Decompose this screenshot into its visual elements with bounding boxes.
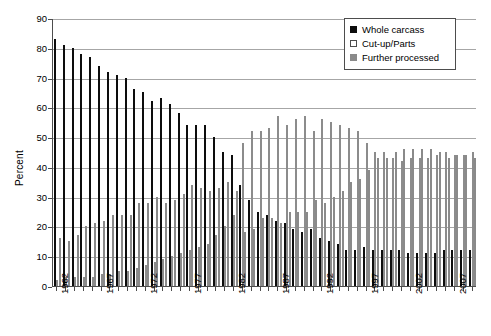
bar <box>183 194 185 286</box>
bar <box>377 158 379 286</box>
legend-swatch-further-icon <box>350 54 357 61</box>
y-axis-tick-label: 50 <box>7 133 47 143</box>
x-axis-tick-mark <box>233 287 234 291</box>
x-axis-tick-mark <box>445 287 446 291</box>
x-axis-tick-label: 1967 <box>105 273 115 294</box>
bar <box>439 152 441 286</box>
bar <box>315 200 317 286</box>
x-axis-tick-mark <box>348 287 349 291</box>
bar <box>54 39 56 286</box>
x-axis-tick-mark <box>392 287 393 291</box>
bar <box>395 152 397 286</box>
bar <box>125 78 127 286</box>
y-axis-tick-label: 20 <box>7 222 47 232</box>
y-axis-tick-label: 30 <box>7 193 47 203</box>
x-axis-tick-mark <box>339 287 340 291</box>
y-axis-tick-label: 70 <box>7 74 47 84</box>
x-axis-tick-mark <box>454 287 455 291</box>
bar <box>72 48 74 286</box>
bar <box>368 170 370 286</box>
bar <box>130 215 132 286</box>
bar <box>160 98 162 286</box>
x-axis-tick-mark <box>410 287 411 291</box>
x-axis-tick-mark <box>118 287 119 291</box>
bar <box>138 203 140 286</box>
x-axis-tick-label: 1972 <box>149 273 159 294</box>
x-axis-tick-mark <box>74 287 75 291</box>
bar <box>448 158 450 286</box>
x-axis-tick-label: 1977 <box>193 273 203 294</box>
legend-item-label: Whole carcass <box>362 25 424 35</box>
bar <box>77 235 79 286</box>
bar <box>142 92 144 286</box>
y-axis-tick-label: 90 <box>7 14 47 24</box>
x-axis-tick-mark <box>180 287 181 291</box>
x-axis-tick-mark <box>472 287 473 291</box>
x-axis-tick-mark <box>427 287 428 291</box>
bar <box>474 158 476 286</box>
legend-item: Whole carcass <box>350 23 450 36</box>
x-axis-tick-mark <box>295 287 296 291</box>
bar <box>412 149 414 286</box>
bar <box>297 212 299 286</box>
bar <box>456 155 458 286</box>
bar <box>165 203 167 286</box>
x-axis-tick-label: 1962 <box>60 273 70 294</box>
x-axis-tick-mark <box>401 287 402 291</box>
y-axis-tick-mark <box>48 287 52 288</box>
x-axis-tick-label: 2007 <box>458 273 468 294</box>
bar <box>89 57 91 286</box>
x-axis-tick-label: 2002 <box>414 273 424 294</box>
x-axis-tick-mark <box>357 287 358 291</box>
y-axis-tick-label: 40 <box>7 163 47 173</box>
bar <box>133 89 135 286</box>
x-axis-tick-mark <box>92 287 93 291</box>
bar <box>63 45 65 286</box>
x-axis-tick-mark <box>162 287 163 291</box>
x-axis-tick-mark <box>127 287 128 291</box>
y-axis-tick-label: 0 <box>7 282 47 292</box>
bar <box>306 212 308 286</box>
legend-swatch-whole-icon <box>350 26 357 33</box>
x-axis-tick-mark <box>207 287 208 291</box>
x-axis-tick-label: 1987 <box>281 273 291 294</box>
bar <box>107 72 109 286</box>
x-axis-tick-mark <box>215 287 216 291</box>
legend-item-label: Further processed <box>362 53 439 63</box>
chart-figure: Percent 0102030405060708090 196219671972… <box>0 0 491 336</box>
x-axis-tick-mark <box>136 287 137 291</box>
bar <box>227 182 229 286</box>
bar <box>85 226 87 286</box>
bar <box>94 223 96 286</box>
bar <box>262 218 264 286</box>
bar <box>174 200 176 286</box>
x-axis-tick-mark <box>260 287 261 291</box>
x-axis-tick-label: 1982 <box>237 273 247 294</box>
chart-legend: Whole carcassCut-up/PartsFurther process… <box>344 18 456 70</box>
x-axis-tick-mark <box>145 287 146 291</box>
bar <box>271 218 273 286</box>
bar <box>98 66 100 286</box>
x-axis-tick-mark <box>83 287 84 291</box>
x-axis-tick-mark <box>171 287 172 291</box>
x-axis-tick-mark <box>383 287 384 291</box>
y-axis-tick-label: 60 <box>7 103 47 113</box>
bar <box>209 191 211 286</box>
bar <box>342 191 344 286</box>
x-axis-tick-mark <box>56 287 57 291</box>
bar <box>200 188 202 286</box>
x-axis-tick-mark <box>224 287 225 291</box>
legend-item: Cut-up/Parts <box>350 37 450 50</box>
bar <box>151 101 153 286</box>
y-axis-tick-label: 10 <box>7 252 47 262</box>
y-axis-tick-label: 80 <box>7 44 47 54</box>
bar <box>386 158 388 286</box>
x-axis-tick-mark <box>189 287 190 291</box>
legend-swatch-cutup-icon <box>350 40 357 47</box>
x-axis-tick-mark <box>251 287 252 291</box>
x-axis-tick-mark <box>366 287 367 291</box>
bar <box>218 188 220 286</box>
bar <box>236 191 238 286</box>
x-axis-tick-mark <box>277 287 278 291</box>
x-axis-tick-mark <box>304 287 305 291</box>
